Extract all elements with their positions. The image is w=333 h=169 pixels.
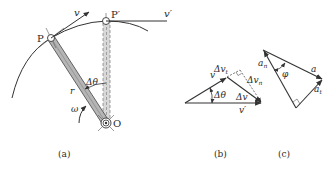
label-delta-v: Δv (235, 92, 248, 102)
label-omega: ω (71, 104, 79, 114)
label-p: P (37, 33, 44, 44)
label-a-n: an (258, 58, 267, 69)
component-delta-v-t (227, 70, 240, 77)
panel-c: a an at φ (c) (258, 50, 322, 159)
label-delta-theta-b: Δθ (213, 90, 226, 100)
vector-a-n (264, 51, 296, 108)
panel-a: P P′ O v v′ r Δθ ω (a) (12, 7, 173, 159)
right-angle-mark-b (236, 72, 242, 76)
right-angle-mark-c (293, 99, 300, 104)
velocity-v-arrow (51, 12, 89, 38)
kinematics-diagram: P P′ O v v′ r Δθ ω (a) v v′ Δθ Δv Δvt Δv… (0, 0, 333, 169)
omega-rotation-arrow (79, 106, 86, 123)
caption-b: (b) (214, 149, 227, 159)
label-r: r (70, 86, 75, 96)
angle-delta-theta-arc-b (210, 88, 212, 103)
panel-b: v v′ Δθ Δv Δvt Δvn (b) (185, 64, 263, 159)
label-v-prime: v′ (164, 8, 173, 19)
caption-a: (a) (58, 149, 70, 159)
rod-p-prime-o (103, 22, 110, 122)
caption-c: (c) (278, 149, 290, 159)
label-p-prime: P′ (111, 9, 121, 20)
label-a: a (311, 64, 316, 74)
label-delta-v-t: Δvt (213, 64, 229, 75)
label-delta-theta: Δθ (85, 77, 98, 87)
label-a-t: at (314, 84, 322, 95)
label-delta-v-n: Δvn (246, 75, 263, 86)
label-phi: φ (282, 69, 289, 79)
label-v: v (74, 7, 80, 18)
label-v-prime-b: v′ (239, 105, 246, 115)
label-o: O (113, 118, 121, 129)
rod-p-o (48, 36, 109, 125)
